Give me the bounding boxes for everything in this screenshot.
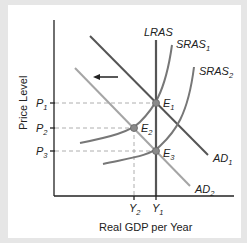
point-e2	[131, 125, 138, 132]
y-axis-title: Price Level	[17, 76, 29, 130]
shift-arrow-icon	[93, 74, 118, 80]
e1-label: E1	[163, 97, 175, 112]
e2-label: E2	[141, 122, 153, 137]
ad1-label: AD1	[212, 152, 232, 167]
x-axis-title: Real GDP per Year	[99, 221, 193, 233]
point-e3	[153, 148, 160, 155]
sras1-label: SRAS1	[176, 38, 210, 53]
ad-as-diagram: LRAS SRAS1 SRAS2 AD1 AD2 E1 E2 E3 P1 P2 …	[0, 0, 247, 243]
sras2-label: SRAS2	[199, 65, 234, 80]
p2-label: P2	[36, 122, 48, 137]
y2-label: Y2	[129, 202, 141, 217]
sras2-curve	[103, 67, 194, 164]
p1-label: P1	[36, 97, 48, 112]
lras-label: LRAS	[144, 26, 173, 38]
y1-label: Y1	[152, 202, 164, 217]
p3-label: P3	[36, 145, 48, 160]
guide-lines	[55, 103, 156, 196]
point-e1	[153, 100, 160, 107]
